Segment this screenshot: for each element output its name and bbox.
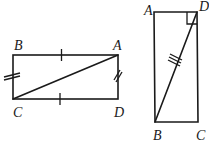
right-label-D: D (198, 0, 209, 14)
right-label-B: B (153, 128, 162, 143)
left-label-A: A (112, 38, 122, 53)
right-diagonal-BD (155, 12, 197, 122)
left-double-tick-BC (4, 73, 20, 80)
left-label-B: B (14, 38, 23, 53)
right-label-C: C (196, 128, 206, 143)
geometry-diagram: B A C D A D B C (0, 0, 209, 145)
left-rectangle-figure: B A C D (4, 38, 124, 120)
left-label-C: C (13, 105, 23, 120)
right-label-A: A (143, 3, 153, 18)
left-label-D: D (113, 105, 124, 120)
right-rectangle-figure: A D B C (143, 0, 209, 143)
left-diagonal-CA (13, 55, 118, 99)
